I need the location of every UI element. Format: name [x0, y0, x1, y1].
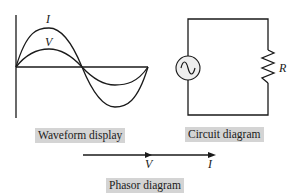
waveform-caption: Waveform display [35, 128, 125, 143]
voltage-waveform-label: V [45, 35, 54, 49]
circuit-diagram: R [176, 19, 287, 115]
circuit-wire-bottom [188, 80, 268, 115]
resistor-icon [262, 50, 274, 83]
waveform-display: I V [16, 12, 148, 118]
circuit-wire-top [188, 19, 268, 56]
voltage-phasor-label: V [145, 157, 154, 171]
current-phasor-label: I [207, 157, 213, 171]
resistor-label: R [278, 61, 287, 75]
ac-source-icon [176, 56, 200, 80]
circuit-caption: Circuit diagram [185, 127, 264, 142]
current-waveform-label: I [45, 12, 51, 26]
phasor-diagram: V I [83, 152, 216, 171]
phasor-caption: Phasor diagram [106, 178, 184, 193]
diagram-canvas: I V R V I [0, 0, 303, 194]
